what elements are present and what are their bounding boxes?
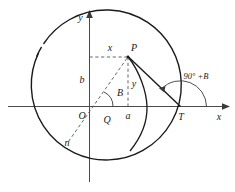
point-label-T: T bbox=[178, 111, 185, 122]
angle-90-plus-B-arc bbox=[162, 81, 207, 107]
point-markers-group bbox=[127, 56, 130, 59]
dashed-diagonal-n-Q-P bbox=[69, 57, 129, 142]
y-axis-label: y bbox=[77, 12, 83, 23]
angle-label-90-plus-B: 90° +B bbox=[184, 71, 209, 81]
x-axis-arrowhead bbox=[222, 103, 230, 110]
angle-label-B: B bbox=[117, 87, 123, 98]
x-axis-label: x bbox=[216, 111, 222, 122]
segment-label-b: b bbox=[80, 74, 85, 85]
segment-label-y: y bbox=[131, 78, 137, 89]
point-marker-P bbox=[127, 56, 130, 59]
geometry-figure: y x O P Q T n x b y a B 90° +B bbox=[0, 0, 235, 192]
origin-label-O: O bbox=[78, 110, 85, 121]
point-label-n: n bbox=[65, 137, 70, 148]
angle-B-arc bbox=[104, 92, 113, 107]
geometry-svg: y x O P Q T n x b y a B 90° +B bbox=[0, 0, 235, 192]
point-label-Q: Q bbox=[103, 114, 111, 125]
circle-outline-break-segment bbox=[37, 47, 41, 56]
segment-label-x: x bbox=[107, 42, 113, 53]
point-label-P: P bbox=[130, 42, 137, 53]
segment-label-a: a bbox=[126, 110, 131, 121]
dashed-construction-group bbox=[69, 57, 129, 142]
